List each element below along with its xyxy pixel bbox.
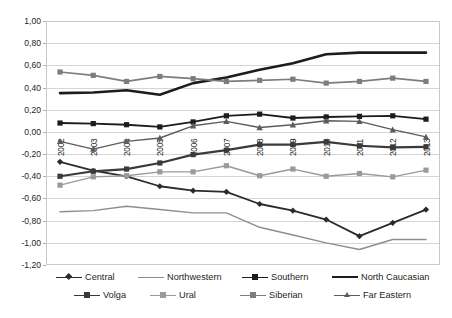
series-siberian: [57, 69, 428, 85]
data-point: [157, 124, 162, 129]
legend-label: Southern: [271, 272, 308, 282]
legend-label: Central: [85, 272, 115, 282]
data-point: [390, 76, 395, 81]
data-point: [124, 173, 129, 178]
data-point: [157, 183, 163, 189]
data-point: [324, 174, 329, 179]
legend-label: Northwestern: [167, 272, 222, 282]
legend-item-volga[interactable]: Volga: [74, 290, 126, 300]
legend-swatch: [334, 290, 360, 300]
data-point: [390, 145, 395, 150]
data-point: [423, 79, 428, 84]
legend-label: Far Eastern: [363, 290, 411, 300]
legend-label: Siberian: [269, 290, 303, 300]
legend-swatch: [240, 290, 266, 300]
data-point: [91, 73, 96, 78]
data-point: [324, 81, 329, 86]
data-point: [423, 144, 428, 149]
data-point: [290, 166, 295, 171]
line-chart: 1,000,800,600,400,200,00-0,20-0,40-0,60-…: [0, 0, 452, 318]
data-point: [57, 183, 62, 188]
legend-item-ural[interactable]: Ural: [150, 290, 196, 300]
series-north-caucasian: [60, 53, 426, 95]
legend-label: Ural: [179, 290, 196, 300]
data-point: [157, 74, 162, 79]
data-point: [190, 169, 195, 174]
data-point: [57, 138, 63, 144]
legend-label: North Caucasian: [361, 272, 429, 282]
legend-swatch: [56, 272, 82, 282]
data-point: [91, 174, 96, 179]
data-point: [357, 143, 362, 148]
data-point: [124, 122, 129, 127]
data-point: [91, 169, 96, 174]
data-point: [224, 113, 229, 118]
legend-swatch: [74, 290, 100, 300]
data-point: [124, 166, 129, 171]
data-point: [390, 113, 395, 118]
data-point: [257, 78, 262, 83]
data-point: [290, 115, 295, 120]
data-point: [257, 112, 262, 117]
data-point: [57, 174, 62, 179]
legend-item-siberian[interactable]: Siberian: [240, 290, 303, 300]
data-point: [257, 173, 262, 178]
series-line: [60, 206, 426, 249]
data-point: [257, 142, 262, 147]
legend: CentralNorthwesternSouthernNorth Caucasi…: [46, 272, 440, 312]
legend-item-far-eastern[interactable]: Far Eastern: [334, 290, 411, 300]
data-point: [157, 160, 162, 165]
data-point: [357, 79, 362, 84]
legend-item-southern[interactable]: Southern: [242, 272, 308, 282]
data-point: [190, 188, 196, 194]
data-point: [290, 208, 296, 214]
data-point: [157, 169, 162, 174]
legend-row: CentralNorthwesternSouthernNorth Caucasi…: [46, 272, 440, 288]
data-point: [323, 216, 329, 222]
data-point: [290, 142, 295, 147]
data-point: [390, 220, 396, 226]
legend-swatch: [150, 290, 176, 300]
data-point: [57, 120, 62, 125]
series-line: [60, 53, 426, 95]
data-point: [257, 201, 263, 207]
data-point: [224, 79, 229, 84]
data-point: [357, 171, 362, 176]
data-point: [190, 76, 195, 81]
series-ural: [57, 163, 428, 188]
data-point: [356, 233, 362, 239]
data-point: [91, 121, 96, 126]
legend-item-north-caucasian[interactable]: North Caucasian: [332, 272, 429, 282]
legend-label: Volga: [103, 290, 126, 300]
data-point: [57, 69, 62, 74]
data-point: [124, 79, 129, 84]
series-line: [60, 162, 426, 236]
legend-row: VolgaUralSiberianFar Eastern: [46, 290, 440, 306]
data-point: [423, 168, 428, 173]
data-point: [290, 77, 295, 82]
legend-swatch: [138, 272, 164, 282]
data-point: [223, 189, 229, 195]
data-point: [224, 148, 229, 153]
series-southern: [57, 112, 428, 130]
data-point: [423, 117, 428, 122]
data-point: [224, 163, 229, 168]
legend-swatch: [332, 272, 358, 282]
data-point: [390, 174, 395, 179]
legend-item-central[interactable]: Central: [56, 272, 115, 282]
data-point: [423, 206, 429, 212]
legend-item-northwestern[interactable]: Northwestern: [138, 272, 222, 282]
legend-swatch: [242, 272, 268, 282]
series-layer: [0, 0, 452, 318]
series-northwestern: [60, 206, 426, 249]
series-line: [60, 166, 426, 185]
data-point: [324, 139, 329, 144]
data-point: [190, 152, 195, 157]
series-volga: [57, 139, 428, 179]
data-point: [57, 159, 63, 165]
